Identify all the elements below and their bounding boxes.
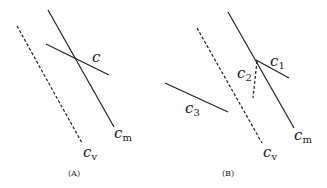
label-cm: cm [114, 124, 132, 143]
label-c3: c3 [185, 99, 200, 118]
diagram: c cm cv (A) c1 c2 c3 cm cv (B) [0, 0, 327, 188]
panel-b [165, 12, 294, 143]
panel-a [17, 10, 114, 143]
line-cv-dashed [197, 28, 262, 143]
label-c: c [92, 48, 101, 66]
line-cm [48, 10, 114, 127]
label-cv: cv [263, 143, 277, 162]
label-cv: cv [83, 143, 97, 162]
caption-a: (A) [68, 169, 80, 178]
label-c2: c2 [237, 64, 252, 83]
caption-b: (B) [222, 169, 234, 178]
line-cv-dashed [17, 26, 82, 143]
line-c2-dashed [253, 61, 257, 98]
label-c1: c1 [270, 52, 285, 71]
label-cm: cm [294, 126, 312, 145]
